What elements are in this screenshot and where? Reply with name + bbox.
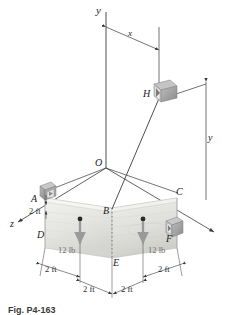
plate-left-panel xyxy=(45,198,112,258)
load-label-right: 12 lb xyxy=(148,245,165,255)
point-label-A: A xyxy=(31,193,37,204)
dimension-label-left-lower-2ft: 2 ft xyxy=(45,264,57,274)
load-label-left: 12 lb xyxy=(58,245,75,255)
point-label-D: D xyxy=(37,229,44,240)
point-label-C: C xyxy=(176,186,183,197)
cable-BH xyxy=(112,96,160,209)
figure-caption: Fig. P4-163 xyxy=(8,305,56,315)
dimension-label-x: x xyxy=(128,28,132,38)
dimension-label-bottom-left-2ft: 2 ft xyxy=(83,284,95,294)
axis-label-z: z xyxy=(10,218,14,229)
point-label-H: H xyxy=(143,88,150,99)
point-label-B: B xyxy=(103,205,109,216)
figure-container: y x H y O A C z 2 ft D B E F 12 lb 12 lb… xyxy=(0,0,241,315)
dimension-label-az-2ft: 2 ft xyxy=(29,206,41,216)
dimension-label-y: y xyxy=(208,132,212,143)
diagram-canvas xyxy=(0,0,241,315)
point-label-E: E xyxy=(113,257,119,268)
frame-outline xyxy=(44,168,178,193)
dimension-label-right-lower-2ft: 2 ft xyxy=(158,264,170,274)
origin-label-O: O xyxy=(95,157,102,168)
point-label-F: F xyxy=(166,233,172,244)
dimension-y xyxy=(170,82,206,200)
support-H xyxy=(154,80,177,102)
dimension-x xyxy=(106,27,159,92)
support-A xyxy=(40,182,56,200)
axis-label-y: y xyxy=(96,4,101,16)
dimension-label-bottom-right-2ft: 2 ft xyxy=(121,284,133,294)
